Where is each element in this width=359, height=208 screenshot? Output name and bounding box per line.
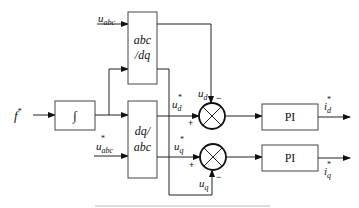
svg-text:−: − <box>216 93 221 103</box>
figure-caption-cropped <box>95 203 270 208</box>
svg-text:abc: abc <box>134 33 152 47</box>
svg-text:uq: uq <box>199 177 209 192</box>
svg-text:+: + <box>189 160 194 170</box>
svg-text:abc: abc <box>134 140 152 154</box>
svg-text:ud: ud <box>198 87 209 102</box>
abc-dq-transform-block: abc /dq <box>128 12 157 84</box>
f-star-input: f* <box>14 107 55 123</box>
svg-text:*: * <box>101 134 105 143</box>
svg-text:*: * <box>327 95 331 104</box>
pi-controller-d: PI <box>262 104 318 130</box>
svg-text:uabc: uabc <box>98 12 116 27</box>
svg-text:/dq: /dq <box>134 48 150 62</box>
integrator-block: ∫ <box>55 101 95 130</box>
u-d-feedback: ud − <box>157 24 221 103</box>
svg-text:−: − <box>216 172 221 182</box>
svg-text:*: * <box>327 160 331 169</box>
i-q-star-output: iq * <box>318 158 350 180</box>
svg-text:f*: f* <box>14 107 22 123</box>
u-abc-star-input: uabc * <box>94 134 128 156</box>
svg-text:PI: PI <box>285 151 296 165</box>
sum-junction-d <box>199 103 225 129</box>
svg-text:*: * <box>180 135 184 144</box>
u-d-star-signal: ud * + <box>157 93 199 128</box>
dq-abc-transform-block: dq/ abc <box>128 101 157 178</box>
svg-text:PI: PI <box>285 110 296 124</box>
svg-text:+: + <box>188 118 193 128</box>
svg-text:*: * <box>178 93 182 102</box>
control-block-diagram: f* ∫ uabc abc /dq uabc * dq/ abc ud − <box>0 0 359 208</box>
u-q-feedback: uq − <box>157 69 221 195</box>
theta-signal <box>95 69 128 115</box>
svg-text:dq/: dq/ <box>135 124 152 138</box>
u-abc-input: uabc <box>97 12 128 27</box>
i-d-star-output: id * <box>318 95 350 117</box>
sum-junction-q <box>200 144 226 170</box>
pi-controller-q: PI <box>262 145 318 171</box>
u-q-star-signal: uq * + <box>157 135 200 170</box>
